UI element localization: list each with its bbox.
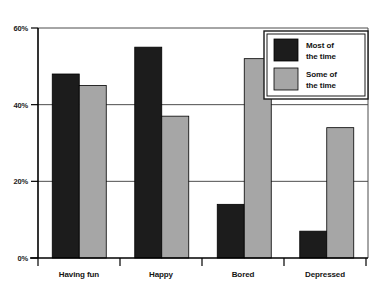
y-axis-label-20: 20% — [14, 177, 29, 186]
y-axis-label-60: 60% — [14, 24, 29, 33]
bar-bored-most — [217, 204, 244, 258]
bar-having-fun-most — [52, 74, 79, 258]
x-axis-label-happy: Happy — [149, 270, 174, 279]
legend-label-some-line1: Some of — [306, 70, 337, 79]
x-axis-label-bored: Bored — [232, 270, 255, 279]
legend-swatch-most — [274, 39, 298, 61]
x-axis-label-depressed: Depressed — [305, 270, 345, 279]
bar-having-fun-some — [79, 86, 106, 259]
bar-happy-most — [135, 47, 162, 258]
x-axis-label-having-fun: Having fun — [59, 270, 100, 279]
chart-canvas: 60% 40% 20% 0% Having fun Happy Bored De… — [0, 0, 378, 301]
legend-label-most-line2: the time — [306, 52, 337, 61]
bar-happy-some — [162, 116, 189, 258]
legend-label-most-line1: Most of — [306, 41, 334, 50]
bar-chart: 60% 40% 20% 0% Having fun Happy Bored De… — [0, 0, 378, 301]
bar-depressed-most — [300, 231, 327, 258]
y-axis-label-0: 0% — [18, 254, 29, 263]
bar-depressed-some — [327, 128, 354, 258]
legend-label-some-line2: the time — [306, 81, 337, 90]
legend-swatch-some — [274, 68, 298, 90]
y-axis-label-40: 40% — [14, 101, 29, 110]
